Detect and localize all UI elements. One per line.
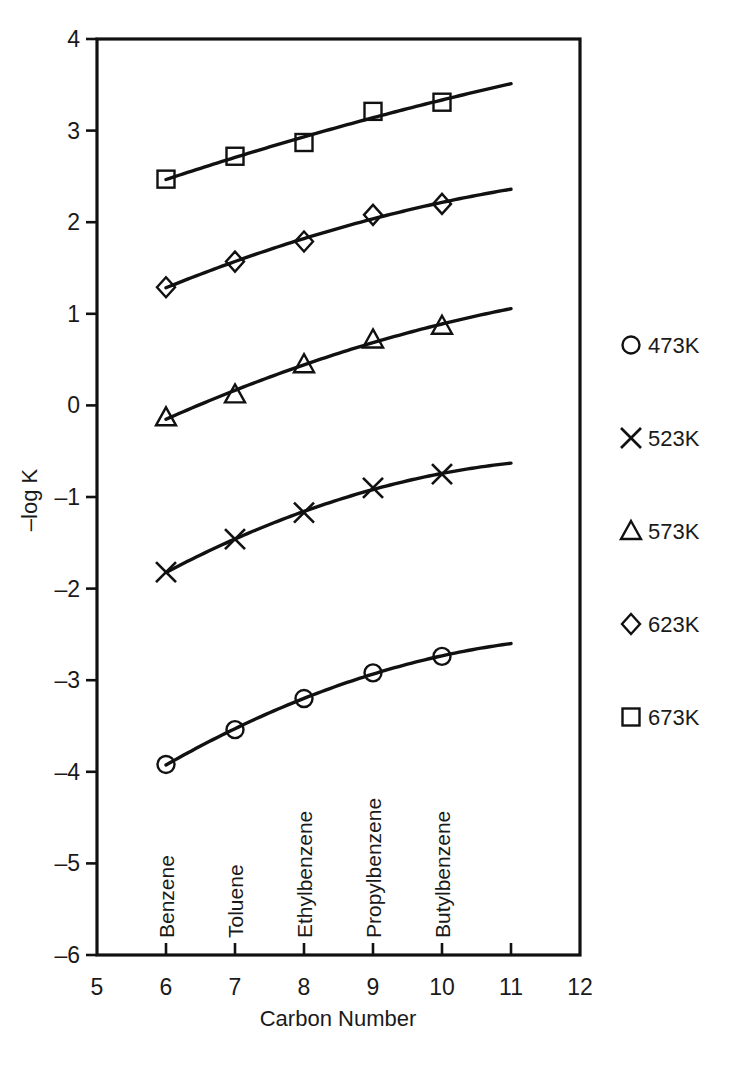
compound-labels: BenzeneTolueneEthylbenzenePropylbenzeneB… — [155, 798, 454, 938]
legend-item-573K: 573K — [621, 519, 700, 544]
legend-item-673K: 673K — [623, 705, 700, 730]
legend-item-523K: 523K — [621, 426, 700, 451]
x-axis-ticks — [166, 943, 511, 955]
compound-label-butylbenzene: Butylbenzene — [431, 811, 454, 938]
legend-item-473K: 473K — [623, 333, 700, 358]
data-point-cross — [156, 562, 176, 582]
series-curve — [166, 189, 511, 288]
series-curves — [166, 84, 511, 765]
data-point-cross — [225, 529, 245, 549]
series-curve — [166, 463, 511, 572]
x-tick-label: 11 — [499, 974, 523, 1000]
legend-label-573K: 573K — [648, 519, 700, 544]
y-tick-label: –2 — [54, 576, 80, 602]
x-tick-label: 10 — [429, 974, 455, 1000]
series-curve — [166, 644, 511, 765]
series-curve — [166, 309, 511, 420]
x-tick-label: 12 — [567, 974, 593, 1000]
compound-label-propylbenzene: Propylbenzene — [362, 798, 385, 938]
plot-frame — [97, 39, 580, 955]
scatter-line-chart: 43210–1–2–3–4–5–6 56789101112 BenzeneTol… — [0, 0, 742, 1079]
series-markers — [156, 94, 452, 773]
legend-item-623K: 623K — [622, 612, 700, 637]
legend-label-473K: 473K — [648, 333, 700, 358]
y-tick-label: –6 — [54, 942, 80, 968]
y-tick-label: 1 — [67, 301, 80, 327]
x-tick-label: 5 — [91, 974, 104, 1000]
compound-label-toluene: Toluene — [224, 864, 247, 938]
compound-label-ethylbenzene: Ethylbenzene — [293, 811, 316, 938]
y-tick-label: –3 — [54, 667, 80, 693]
legend-label-623K: 623K — [648, 612, 700, 637]
series-markers-473K — [158, 648, 451, 773]
data-point-square — [623, 709, 640, 726]
series-curve — [166, 84, 511, 180]
y-axis-ticks — [86, 39, 97, 955]
figure-container: 43210–1–2–3–4–5–6 56789101112 BenzeneTol… — [0, 0, 742, 1079]
y-tick-label: –4 — [54, 759, 80, 785]
data-point-cross — [621, 428, 641, 448]
y-tick-label: –1 — [54, 484, 80, 510]
x-axis-tick-labels: 56789101112 — [91, 974, 593, 1000]
legend-label-673K: 673K — [648, 705, 700, 730]
x-axis-title: Carbon Number — [260, 1006, 417, 1031]
y-tick-label: 4 — [67, 26, 80, 52]
x-tick-label: 7 — [229, 974, 242, 1000]
x-tick-label: 9 — [367, 974, 380, 1000]
data-point-diamond — [622, 614, 640, 634]
y-axis-title: –log K — [17, 468, 42, 531]
data-point-circle — [623, 337, 640, 354]
y-axis-tick-labels: 43210–1–2–3–4–5–6 — [54, 26, 80, 968]
y-tick-label: 2 — [67, 209, 80, 235]
x-tick-label: 6 — [160, 974, 173, 1000]
y-tick-label: –5 — [54, 850, 80, 876]
y-tick-label: 3 — [67, 118, 80, 144]
legend-label-523K: 523K — [648, 426, 700, 451]
data-point-triangle — [621, 521, 641, 539]
chart-legend: 473K523K573K623K673K — [621, 333, 700, 730]
compound-label-benzene: Benzene — [155, 855, 178, 938]
x-tick-label: 8 — [298, 974, 311, 1000]
y-tick-label: 0 — [67, 392, 80, 418]
